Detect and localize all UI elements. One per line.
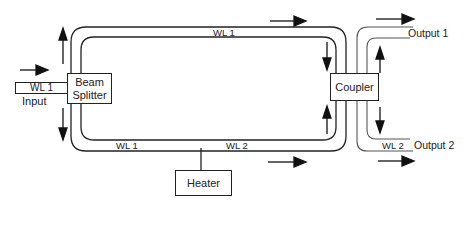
output-2-waveguide-inner — [367, 100, 410, 139]
coupler-box: Coupler — [330, 73, 379, 101]
bottom-arm-wl2-label: WL 2 — [226, 140, 248, 151]
inner-waveguide-top — [81, 37, 336, 73]
input-label: Input — [22, 95, 46, 107]
output-1-waveguide-outer — [357, 27, 413, 73]
coupler-label: Coupler — [335, 81, 374, 94]
beam-splitter-label: Beam Splitter — [72, 76, 108, 102]
outer-waveguide-bottom — [71, 100, 346, 151]
input-wl-box: WL 1 — [15, 82, 68, 94]
bottom-arm-wl1-label: WL 1 — [116, 140, 138, 151]
output-1-label: Output 1 — [408, 27, 448, 39]
output-1-waveguide-inner — [367, 38, 410, 73]
output-2-wl-label: WL 2 — [382, 140, 404, 151]
input-wl-label: WL 1 — [30, 83, 53, 93]
inner-waveguide-bottom — [81, 100, 336, 140]
outer-waveguide — [71, 27, 346, 73]
heater-label: Heater — [187, 177, 220, 190]
heater-box: Heater — [175, 170, 232, 196]
output-2-label: Output 2 — [414, 139, 454, 151]
top-arm-wl-label: WL 1 — [213, 27, 235, 38]
beam-splitter-box: Beam Splitter — [67, 73, 112, 104]
